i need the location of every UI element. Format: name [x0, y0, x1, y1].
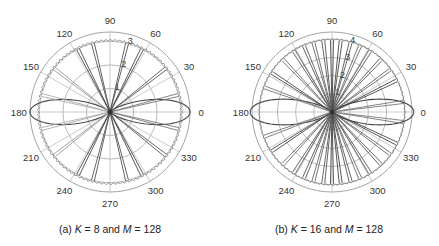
- beam-line: [79, 112, 110, 176]
- angle-tick-label: 180: [233, 107, 249, 118]
- caption-a-mid: = 8 and: [82, 223, 123, 235]
- angle-tick-label: 300: [148, 185, 164, 196]
- angle-tick-label: 30: [184, 61, 195, 72]
- caption-b-mid: = 16 and: [298, 223, 345, 235]
- caption-b-var-k: K: [291, 223, 298, 235]
- origin-hub: [108, 110, 113, 115]
- caption-a-var-m: M: [123, 223, 132, 235]
- polar-grid: 0306090120150180210240270300330123: [11, 15, 204, 208]
- caption-b: (b) K = 16 and M = 128: [219, 223, 439, 235]
- polar-plot-a: 0306090120150180210240270300330123 (a) K…: [0, 0, 220, 246]
- polar-grid: 03060901201501802102402703003301234: [233, 15, 426, 208]
- angle-tick-label: 300: [370, 185, 386, 196]
- caption-a: (a) K = 8 and M = 128: [0, 223, 220, 235]
- beam-line: [332, 58, 380, 112]
- angle-tick-label: 330: [403, 152, 419, 163]
- angle-tick-label: 330: [181, 152, 197, 163]
- beam-line: [110, 93, 178, 112]
- angle-tick-label: 270: [324, 198, 340, 209]
- angle-tick-label: 90: [105, 15, 116, 26]
- polar-plot-b: 03060901201501802102402703003301234 (b) …: [219, 0, 439, 246]
- angle-tick-label: 120: [56, 28, 72, 39]
- angle-tick-label: 150: [245, 61, 261, 72]
- angle-tick-label: 180: [11, 107, 27, 118]
- angle-tick-label: 120: [278, 28, 294, 39]
- radial-tick-label: 4: [350, 35, 355, 45]
- angle-tick-label: 60: [150, 28, 161, 39]
- caption-b-prefix: (b): [275, 223, 291, 235]
- angle-tick-label: 0: [421, 107, 426, 118]
- angle-tick-label: 210: [245, 152, 261, 163]
- polar-chart-a: 0306090120150180210240270300330123: [0, 0, 220, 246]
- beam-line: [110, 112, 129, 180]
- caption-a-prefix: (a): [59, 223, 75, 235]
- angle-tick-label: 90: [327, 15, 338, 26]
- beam-line: [110, 48, 141, 112]
- angle-tick-label: 0: [199, 107, 204, 118]
- angle-tick-label: 210: [23, 152, 39, 163]
- angle-tick-label: 240: [278, 185, 294, 196]
- caption-a-var-k: K: [75, 223, 82, 235]
- caption-a-suffix: = 128: [132, 223, 162, 235]
- angle-tick-label: 60: [372, 28, 383, 39]
- polar-chart-b: 03060901201501802102402703003301234: [219, 0, 439, 246]
- angle-tick-label: 270: [102, 198, 118, 209]
- angle-tick-label: 150: [23, 61, 39, 72]
- caption-b-suffix: = 128: [354, 223, 384, 235]
- angle-tick-label: 240: [56, 185, 72, 196]
- beam-line: [91, 44, 110, 112]
- angle-tick-label: 30: [406, 61, 417, 72]
- origin-hub: [330, 110, 335, 115]
- caption-b-var-m: M: [345, 223, 354, 235]
- beam-line: [42, 112, 110, 131]
- beam-line: [332, 112, 380, 166]
